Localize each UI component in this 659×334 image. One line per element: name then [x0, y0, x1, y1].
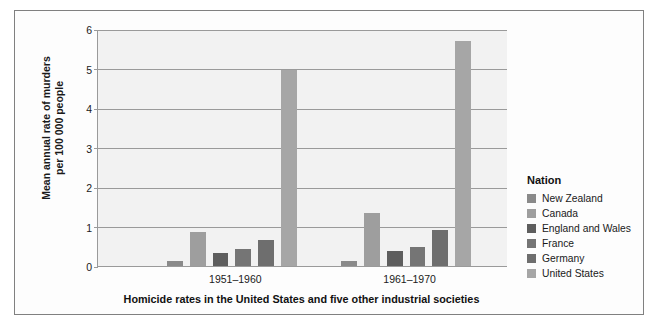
y-tick-label: 5: [86, 64, 92, 76]
y-tick-label: 2: [86, 182, 92, 194]
legend-label: New Zealand: [542, 193, 603, 204]
legend-item[interactable]: United States: [527, 268, 647, 279]
legend-item[interactable]: New Zealand: [527, 193, 647, 204]
legend-swatch: [527, 209, 536, 218]
legend-label: United States: [542, 268, 604, 279]
legend-title: Nation: [527, 174, 647, 186]
legend-swatch: [527, 239, 536, 248]
bar[interactable]: [281, 70, 297, 266]
y-tick-1: [94, 227, 98, 228]
bar[interactable]: [387, 251, 403, 266]
chart-caption: Homicide rates in the United States and …: [97, 293, 506, 305]
y-tick-label: 4: [86, 103, 92, 115]
plot-area: 01234561951–19601961–1970: [97, 30, 507, 267]
chart-figure: Mean annual rate of murders per 100 000 …: [14, 10, 644, 315]
legend-item[interactable]: France: [527, 238, 647, 249]
legend-swatch: [527, 194, 536, 203]
legend-label: Canada: [542, 208, 578, 219]
bar[interactable]: [258, 240, 274, 266]
y-tick-label: 1: [86, 222, 92, 234]
legend-label: England and Wales: [542, 223, 631, 234]
x-tick-label: 1951–1960: [167, 273, 304, 285]
bar[interactable]: [235, 249, 251, 266]
bar-group-1961–1970: 1961–1970: [341, 30, 478, 266]
legend-item[interactable]: Canada: [527, 208, 647, 219]
x-tick-label: 1961–1970: [341, 273, 478, 285]
legend-swatch: [527, 254, 536, 263]
y-axis-title: Mean annual rate of murders per 100 000 …: [40, 28, 66, 228]
y-tick-label: 3: [86, 143, 92, 155]
bar-group-1951–1960: 1951–1960: [167, 30, 304, 266]
legend-label: Germany: [542, 253, 584, 264]
bar[interactable]: [455, 41, 471, 266]
bar[interactable]: [213, 253, 229, 266]
legend-swatch: [527, 224, 536, 233]
legend-item[interactable]: England and Wales: [527, 223, 647, 234]
y-tick-label: 0: [86, 261, 92, 273]
bar[interactable]: [190, 232, 206, 266]
bar[interactable]: [364, 213, 380, 266]
bar[interactable]: [341, 261, 357, 266]
y-tick-label: 6: [86, 24, 92, 36]
legend-item[interactable]: Germany: [527, 253, 647, 264]
y-tick-0: [94, 267, 98, 268]
bar[interactable]: [410, 247, 426, 266]
y-tick-3: [94, 148, 98, 149]
bar[interactable]: [167, 261, 183, 266]
y-tick-4: [94, 109, 98, 110]
y-tick-2: [94, 188, 98, 189]
legend: Nation New ZealandCanadaEngland and Wale…: [527, 174, 647, 283]
legend-swatch: [527, 269, 536, 278]
legend-label: France: [542, 238, 574, 249]
y-tick-6: [94, 30, 98, 31]
y-tick-5: [94, 69, 98, 70]
bar[interactable]: [432, 230, 448, 266]
